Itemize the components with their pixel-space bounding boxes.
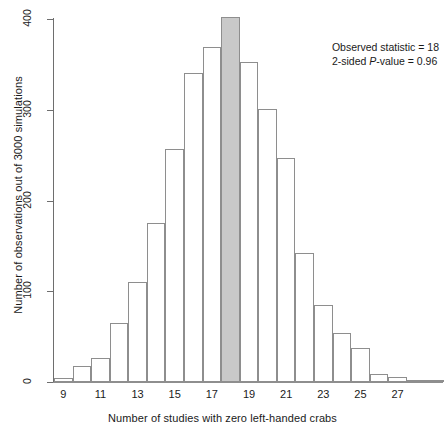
histogram-bar [147,223,166,382]
x-axis-tick-label: 23 [308,388,338,400]
x-axis-tick-label: 21 [271,388,301,400]
y-axis-tick-label: 300 [21,92,33,126]
annotation-p-value: 2-sided P-value = 0.96 [332,54,439,68]
x-axis-tick-label: 27 [383,388,413,400]
y-axis-tick-label: 200 [21,183,33,217]
histogram-bar [295,253,314,382]
histogram-bar [370,374,389,382]
x-axis-tick-label: 11 [85,388,115,400]
y-axis-tick-label-wrap: 0 [6,375,44,389]
histogram-bar [203,47,222,382]
x-axis-tick-label: 19 [234,388,264,400]
x-axis-tick-label: 17 [197,388,227,400]
histogram-bar [110,323,129,382]
histogram-bar [91,358,110,383]
annotation-observed-statistic: Observed statistic = 18 [332,40,439,54]
histogram-bar [351,348,370,382]
y-axis-tick-label-wrap: 200 [6,194,44,208]
annotation-box: Observed statistic = 18 2-sided P-value … [332,40,439,68]
annotation-p-value-prefix: 2-sided [332,55,369,67]
histogram-bar [128,282,147,382]
x-axis-tick-label: 15 [160,388,190,400]
histogram-bar [165,149,184,382]
x-axis-tick-label: 13 [123,388,153,400]
annotation-p-value-suffix: -value = 0.96 [376,55,437,67]
histogram-figure: Number of observations out of 3000 simul… [0,0,445,441]
y-axis-tick-label-wrap: 300 [6,103,44,117]
histogram-bar [221,17,240,382]
x-axis-title: Number of studies with zero left-handed … [0,412,445,424]
x-axis-tick-label: 9 [48,388,78,400]
histogram-bar [240,62,259,382]
y-axis-tick-label: 100 [21,273,33,307]
y-axis-tick-label: 0 [21,364,33,398]
y-axis-tick-label-wrap: 100 [6,284,44,298]
y-axis-tick [47,201,53,202]
histogram-bar [314,305,333,382]
x-axis-line [53,382,443,383]
plot-area [54,19,444,382]
y-axis-tick-label: 400 [21,1,33,35]
histogram-bar [258,109,277,382]
histogram-bar [184,73,203,382]
y-axis-tick-label-wrap: 400 [6,12,44,26]
y-axis-tick [47,291,53,292]
histogram-bar [73,366,92,382]
y-axis-tick [47,110,53,111]
histogram-bar [277,158,296,382]
x-axis-tick-label: 25 [345,388,375,400]
histogram-bar [333,333,352,382]
y-axis-tick [47,19,53,20]
